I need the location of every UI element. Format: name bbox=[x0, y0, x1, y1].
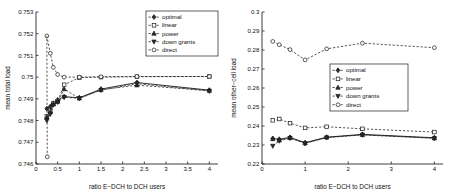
x-tick-label: 1.5 bbox=[97, 165, 106, 172]
y-tick-label: 0.748 bbox=[18, 117, 34, 124]
legend-label: power bbox=[162, 30, 179, 37]
y-tick-label: 0.23 bbox=[248, 141, 260, 148]
x-tick-label: 4 bbox=[433, 165, 437, 172]
data-point-hexagram-icon bbox=[99, 75, 103, 79]
data-point-hexagram-icon bbox=[288, 48, 292, 52]
y-tick-label: 0.751 bbox=[18, 52, 34, 59]
legend-label: optimal bbox=[162, 13, 182, 20]
data-point-hexagram-icon bbox=[336, 103, 340, 107]
x-tick-label: 0.5 bbox=[53, 165, 62, 172]
data-point-hexagram-icon bbox=[45, 34, 49, 38]
data-point-square-icon bbox=[361, 127, 365, 131]
legend-label: down grants bbox=[346, 92, 379, 99]
legend-right[interactable]: optimallinearpowerdown grantsdirect bbox=[330, 64, 408, 111]
chart-panel-left: 00.511.522.533.540.7460.7470.7480.7490.7… bbox=[0, 0, 226, 192]
x-tick-label: 2 bbox=[346, 165, 350, 172]
data-point-hexagram-icon bbox=[277, 43, 281, 47]
x-tick-label: 2.5 bbox=[140, 165, 149, 172]
data-point-square-icon bbox=[336, 77, 340, 81]
data-point-hexagram-icon bbox=[361, 41, 365, 45]
y-tick-label: 0.753 bbox=[18, 8, 34, 15]
data-point-hexagram-icon bbox=[271, 40, 275, 44]
x-tick-label: 0 bbox=[260, 165, 264, 172]
y-tick-label: 0.746 bbox=[18, 160, 34, 167]
data-point-hexagram-icon bbox=[432, 46, 436, 50]
series-optimal bbox=[271, 132, 436, 145]
data-point-hexagram-icon bbox=[135, 75, 139, 79]
y-axis-title: mean total load bbox=[4, 66, 11, 110]
y-tick-label: 0.752 bbox=[18, 30, 34, 37]
data-point-square-icon bbox=[325, 125, 329, 129]
data-point-hexagram-icon bbox=[45, 155, 49, 159]
y-tick-label: 0.29 bbox=[248, 27, 260, 34]
x-tick-label: 1 bbox=[78, 165, 82, 172]
y-tick-label: 0.26 bbox=[248, 84, 260, 91]
data-point-hexagram-icon bbox=[62, 75, 66, 79]
chart-left: 00.511.522.533.540.7460.7470.7480.7490.7… bbox=[0, 0, 226, 192]
figure-root: 00.511.522.533.540.7460.7470.7480.7490.7… bbox=[0, 0, 451, 192]
y-tick-label: 0.22 bbox=[248, 160, 260, 167]
series-linear bbox=[271, 117, 436, 134]
legend-label: down grants bbox=[162, 38, 195, 45]
x-tick-label: 2 bbox=[121, 165, 125, 172]
y-tick-label: 0.25 bbox=[248, 103, 260, 110]
data-point-hexagram-icon bbox=[152, 48, 156, 52]
chart-right: 012340.220.230.240.250.260.270.280.290.3… bbox=[226, 0, 451, 192]
x-axis-title: ratio E−DCH to DCH users bbox=[89, 183, 165, 190]
x-tick-label: 3.5 bbox=[183, 165, 192, 172]
x-tick-label: 0 bbox=[34, 165, 38, 172]
y-tick-label: 0.27 bbox=[248, 65, 260, 72]
data-point-hexagram-icon bbox=[207, 75, 211, 79]
x-tick-label: 4 bbox=[208, 165, 212, 172]
y-tick-label: 0.75 bbox=[22, 73, 34, 80]
x-tick-label: 3 bbox=[390, 165, 394, 172]
legend-label: linear bbox=[162, 21, 177, 28]
y-axis-title: mean other−cell load bbox=[230, 58, 237, 118]
x-axis-title: ratio E−DCH to DCH users bbox=[314, 183, 390, 190]
data-point-triangle-down-icon bbox=[271, 144, 275, 148]
series-linear bbox=[45, 75, 211, 118]
x-tick-label: 1 bbox=[303, 165, 307, 172]
x-tick-label: 3 bbox=[164, 165, 168, 172]
data-point-square-icon bbox=[303, 126, 307, 130]
data-point-square-icon bbox=[277, 117, 281, 121]
y-tick-label: 0.749 bbox=[18, 95, 34, 102]
data-point-square-icon bbox=[433, 130, 437, 134]
data-point-hexagram-icon bbox=[48, 51, 52, 55]
y-tick-label: 0.24 bbox=[248, 122, 260, 129]
data-point-hexagram-icon bbox=[51, 65, 55, 69]
data-point-square-icon bbox=[271, 119, 275, 123]
legend-label: direct bbox=[346, 101, 361, 108]
series-direct bbox=[271, 40, 436, 62]
legend-label: linear bbox=[346, 75, 361, 82]
series-power bbox=[271, 132, 437, 144]
y-tick-label: 0.28 bbox=[248, 46, 260, 53]
chart-panel-right: 012340.220.230.240.250.260.270.280.290.3… bbox=[226, 0, 451, 192]
series-optimal bbox=[45, 80, 211, 111]
legend-label: optimal bbox=[346, 66, 366, 73]
data-point-hexagram-icon bbox=[325, 47, 329, 51]
series-down-grants bbox=[271, 133, 437, 148]
data-point-square-icon bbox=[288, 121, 292, 125]
data-point-hexagram-icon bbox=[56, 73, 60, 77]
y-tick-label: 0.747 bbox=[18, 138, 34, 145]
data-point-hexagram-icon bbox=[303, 58, 307, 62]
y-tick-label: 0.3 bbox=[251, 8, 260, 15]
legend-label: power bbox=[346, 84, 363, 91]
data-point-square-icon bbox=[152, 24, 156, 28]
legend-label: direct bbox=[162, 46, 177, 53]
legend-left[interactable]: optimallinearpowerdown grantsdirect bbox=[146, 11, 218, 56]
data-point-hexagram-icon bbox=[77, 75, 81, 79]
